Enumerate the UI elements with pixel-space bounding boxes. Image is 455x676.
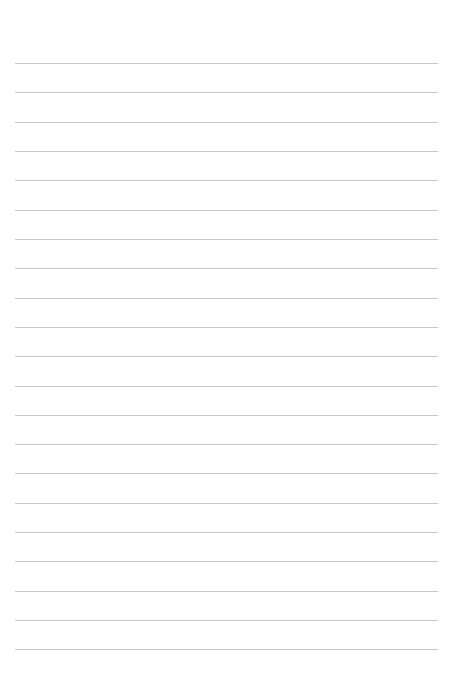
ruled-paper-page bbox=[0, 0, 455, 676]
writing-surface[interactable] bbox=[0, 0, 455, 676]
